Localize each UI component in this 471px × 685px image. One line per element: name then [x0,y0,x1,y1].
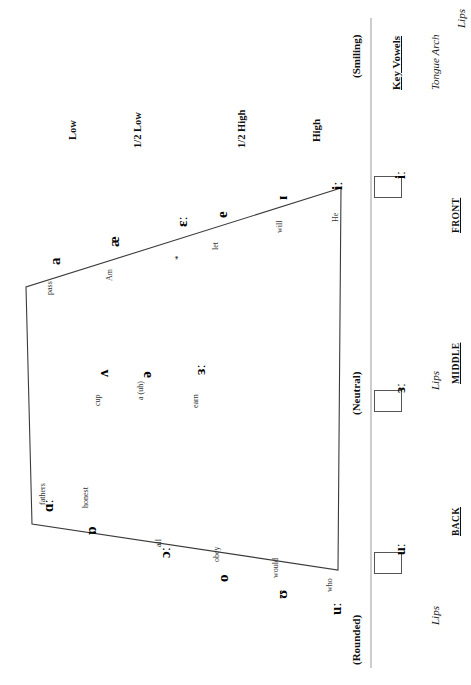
header-middle: MIDDLE [452,343,462,384]
vowel-symbol-turned-script-a: ɒ [84,526,99,535]
key-vowel-box-middle: ɜː [374,390,402,412]
vowel-keyword-am: Am [106,269,114,281]
header-lips-bottom: Lips [430,606,441,625]
vowel-keyword-obey: obey [213,546,221,562]
vowel-symbol-turned-v: ʌ [96,370,111,378]
key-vowel-box-front: iː [374,176,402,198]
key-vowel-symbol-front: iː [394,171,408,179]
quadrilateral-outline [0,0,471,685]
vowel-keyword-all: all [155,539,163,547]
vowel-symbol-u-long: uː [329,602,344,615]
vowel-symbol-o: o [216,575,231,583]
header-front: FRONT [452,198,462,233]
vowel-symbol-epsilon-long: ɛː [175,216,190,227]
header-tongue-arch: Tongue Arch [430,34,441,90]
header-lips-middle: Lips [430,371,441,390]
vowel-star-marker: * [174,256,183,261]
height-high: High [311,119,322,142]
height-half-low: 1/2 Low [133,112,144,148]
key-vowel-symbol-back: uː [394,543,408,555]
height-low: Low [68,120,79,140]
vowel-chart-page: Lips Tongue Arch Key Vowels FRONT MIDDLE… [0,0,471,685]
header-lips-top: Lips [456,9,467,28]
key-vowel-box-back: uː [374,552,402,574]
key-vowel-symbol-middle: ɜː [394,383,408,393]
vowel-keyword-cup: cup [94,394,102,406]
lip-state-neutral: (Neutral) [351,372,362,415]
header-key-vowels: Key Vowels [391,36,402,90]
vowel-symbol-ash: æ [107,236,122,247]
vowel-keyword-earn: earn [192,394,200,408]
vowel-symbol-a: a [48,258,63,266]
vowel-symbol-i-long: iː [330,182,345,190]
vowel-symbol-reversed-epsilon-long: ɜː [193,364,208,375]
height-half-high: 1/2 High [237,110,248,148]
header-back: BACK [452,507,462,536]
vowel-keyword-will: will [276,221,284,233]
vowel-symbol-open-o-long: ɔː [158,547,173,558]
vowel-keyword-fathers: fathers [39,483,47,505]
vowel-symbol-upsilon: ʊ [275,590,290,599]
vowel-keyword-a-uh: a (uh) [137,381,145,400]
vowel-keyword-he: He [332,213,340,222]
vowel-keyword-who: who [326,578,334,592]
vowel-keyword-pass: pass [46,281,54,295]
vowel-quadrilateral [26,188,341,570]
lip-state-rounded: (Rounded) [351,615,362,665]
vowel-symbol-e: e [215,211,230,218]
vowel-symbol-small-capital-i: ɪ [275,196,290,200]
vowel-symbol-schwa: ə [139,371,154,378]
vowel-keyword-honest: honest [82,487,90,508]
lip-state-smiling: (Smiling) [351,35,362,78]
vowel-keyword-would: would [272,558,280,578]
vowel-keyword-let: let [212,242,220,250]
